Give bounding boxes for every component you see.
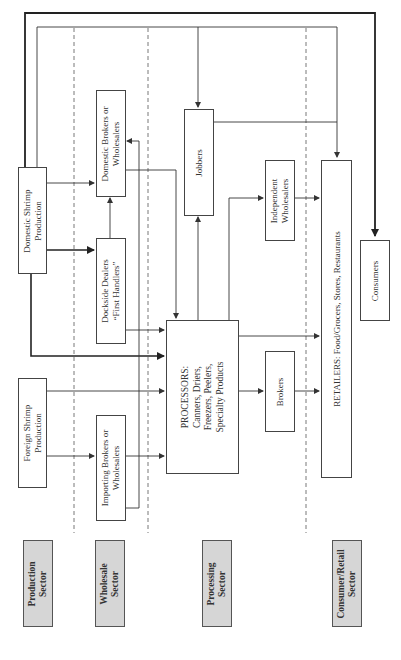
sector-label-consumer-retail: Consumer/Retail Sector <box>332 540 362 627</box>
node-label: PROCESSORS: Canners, Driers, Freezers, P… <box>180 362 226 433</box>
node-label: Importing Brokers or Wholesalers <box>100 430 122 507</box>
node-label: RETAILERS: Food/Grocers, Stores, Restaur… <box>331 231 342 407</box>
sector-label-text: Processing Sector <box>206 562 228 605</box>
node-independent-wholesalers: Independent Wholesalers <box>265 160 295 241</box>
node-label: Dockside Dealers “First Handlers” <box>100 259 122 323</box>
node-jobbers: Jobbers <box>184 109 214 216</box>
sector-label-wholesale: Wholesale Sector <box>95 540 125 627</box>
node-label: Brokers <box>275 377 286 406</box>
node-retailers: RETAILERS: Food/Grocers, Stores, Restaur… <box>321 160 352 478</box>
node-domestic-brokers: Domestic Brokers or Wholesalers <box>96 90 126 197</box>
node-label: Consumers <box>370 260 381 301</box>
sector-label-text: Wholesale Sector <box>99 563 121 605</box>
sector-label-text: Consumer/Retail Sector <box>336 549 358 618</box>
node-brokers: Brokers <box>265 351 295 432</box>
node-label: Domestic Shrimp Production <box>22 189 44 252</box>
node-label: Jobbers <box>194 149 205 177</box>
node-foreign-shrimp-production: Foreign Shrimp Production <box>18 378 47 488</box>
node-label: Foreign Shrimp Production <box>22 405 44 462</box>
node-label: Independent Wholesalers <box>269 178 291 222</box>
node-importing-brokers: Importing Brokers or Wholesalers <box>96 415 126 521</box>
node-consumers: Consumers <box>360 240 390 321</box>
sector-label-processing: Processing Sector <box>202 540 232 627</box>
node-domestic-shrimp-production: Domestic Shrimp Production <box>18 167 47 274</box>
node-label: Domestic Brokers or Wholesalers <box>100 106 122 181</box>
sector-label-text: Production Sector <box>27 561 49 606</box>
node-dockside-dealers: Dockside Dealers “First Handlers” <box>96 238 126 344</box>
node-processors: PROCESSORS: Canners, Driers, Freezers, P… <box>166 320 239 474</box>
sector-label-production: Production Sector <box>23 540 53 627</box>
